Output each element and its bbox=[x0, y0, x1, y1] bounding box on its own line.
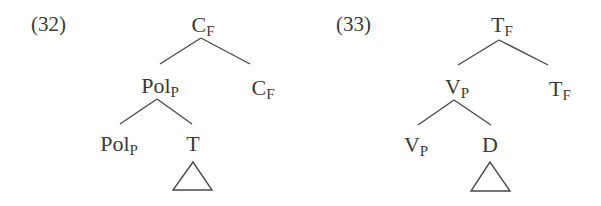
node-subscript: P bbox=[461, 85, 469, 101]
node-category: D bbox=[482, 132, 498, 157]
tree-node-root: CF bbox=[191, 14, 214, 36]
node-subscript: F bbox=[266, 86, 274, 102]
tree-node-left-left: VP bbox=[404, 134, 428, 156]
node-subscript: P bbox=[130, 142, 138, 158]
example-number: (33) bbox=[336, 14, 371, 35]
branch-line bbox=[201, 38, 250, 64]
branch-line bbox=[499, 40, 548, 65]
node-category: Pol bbox=[141, 73, 170, 98]
tree-node-left: PolP bbox=[141, 75, 179, 97]
branch-line bbox=[458, 40, 499, 65]
branch-line bbox=[120, 99, 157, 124]
node-subscript: F bbox=[206, 23, 214, 39]
node-subscript: F bbox=[505, 23, 513, 39]
node-category: C bbox=[251, 75, 266, 100]
tree-node-left-right: T bbox=[186, 133, 199, 155]
node-subscript: P bbox=[420, 143, 428, 159]
tree-node-left-right: D bbox=[482, 134, 498, 156]
branch-line bbox=[157, 99, 192, 124]
node-category: Pol bbox=[100, 131, 129, 156]
tree-node-right: TF bbox=[549, 78, 571, 100]
example-number: (32) bbox=[31, 14, 66, 35]
node-category: C bbox=[191, 12, 206, 37]
tree-node-root: TF bbox=[491, 14, 513, 36]
tree-node-left-left: PolP bbox=[100, 133, 138, 155]
node-subscript: F bbox=[563, 87, 571, 103]
tree-node-right: CF bbox=[251, 77, 274, 99]
triangle-icon bbox=[471, 162, 510, 191]
node-category: V bbox=[445, 74, 461, 99]
branch-line bbox=[418, 100, 454, 125]
node-category: T bbox=[549, 76, 562, 101]
syntax-trees-figure: (32) CF PolP CF PolP T (33) TF VP TF VP … bbox=[0, 0, 601, 206]
branch-line bbox=[454, 100, 491, 125]
tree-node-left: VP bbox=[445, 76, 469, 98]
node-category: T bbox=[491, 12, 504, 37]
branch-line bbox=[160, 38, 201, 64]
triangle-icon bbox=[173, 162, 212, 190]
node-category: T bbox=[186, 131, 199, 156]
node-subscript: P bbox=[171, 84, 179, 100]
node-category: V bbox=[404, 132, 420, 157]
